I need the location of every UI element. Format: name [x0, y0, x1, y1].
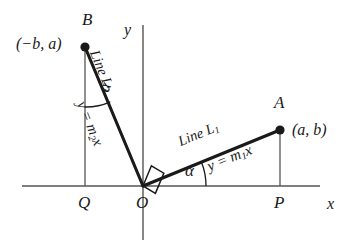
point-p-label: P [274, 194, 284, 211]
y-axis-label: y [124, 22, 131, 38]
point-b-label: B [82, 11, 92, 28]
geometry-figure: B (−b, a) A (a, b) y x O Q P α α Line L1… [0, 0, 355, 249]
point-b-marker [80, 42, 89, 51]
point-a-marker [275, 125, 284, 134]
point-a-coords-label: (a, b) [292, 122, 327, 138]
x-axis-label: x [327, 196, 334, 212]
right-angle-icon [143, 166, 164, 194]
alpha-right-label: α [185, 162, 194, 179]
point-q-label: Q [78, 194, 90, 211]
point-b-coords-label: (−b, a) [16, 36, 61, 52]
point-a-label: A [274, 94, 284, 111]
angle-arc-alpha-right [202, 162, 207, 186]
origin-label: O [136, 194, 148, 211]
